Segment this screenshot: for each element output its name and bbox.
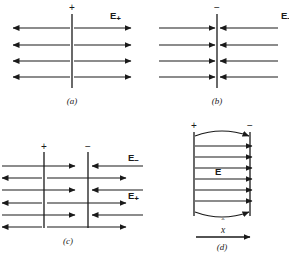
figure-electric-fields: + E+ (a) − E− (b) <box>0 0 289 256</box>
field-label-d: E <box>215 166 221 177</box>
plate-sign-negative-d: − <box>245 120 255 131</box>
fringe-field-arrow-top <box>195 131 249 136</box>
plate-sign-positive-d: + <box>189 120 199 131</box>
axis-label-x-text: x <box>221 225 225 235</box>
axis-label-xhat: ˆ x <box>216 220 230 236</box>
caption-d: (d) <box>202 242 242 252</box>
